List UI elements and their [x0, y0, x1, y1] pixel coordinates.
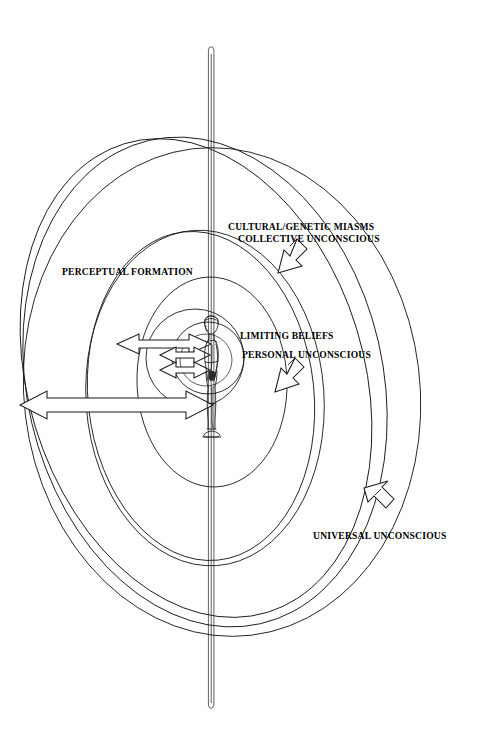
- diagram-canvas: .ln { fill: none; stroke: #1a1a1a; strok…: [0, 0, 483, 741]
- label-cultural-line2: COLLECTIVE UNCONSCIOUS: [228, 233, 380, 245]
- outer-field-ellipses: [0, 95, 448, 664]
- personal-unconscious-ellipse: [133, 274, 290, 489]
- label-cultural-line1: CULTURAL/GENETIC MIASMS: [228, 221, 374, 232]
- label-universal-unconscious: UNIVERSAL UNCONSCIOUS: [313, 530, 446, 542]
- arrow-universal-unconscious: [364, 481, 394, 508]
- label-perceptual-line1: PERCEPTUAL FORMATION: [62, 266, 193, 277]
- diagram-root: .ln { fill: none; stroke: #1a1a1a; strok…: [0, 0, 483, 741]
- arrow-personal-unconscious: [275, 358, 304, 392]
- label-limiting-beliefs: LIMITING BELIEFS PERSONAL UNCONSCIOUS: [240, 330, 371, 362]
- measure-arrow-outer: [20, 391, 213, 419]
- label-cultural-genetic-miasms: CULTURAL/GENETIC MIASMS COLLECTIVE UNCON…: [228, 221, 380, 246]
- label-universal-line1: UNIVERSAL UNCONSCIOUS: [313, 530, 446, 541]
- label-limiting-line1: LIMITING BELIEFS: [240, 330, 334, 341]
- label-limiting-line2: PERSONAL UNCONSCIOUS: [240, 349, 371, 361]
- measure-arrow-inner: [160, 347, 210, 378]
- label-perceptual-formation: PERCEPTUAL FORMATION: [62, 266, 193, 278]
